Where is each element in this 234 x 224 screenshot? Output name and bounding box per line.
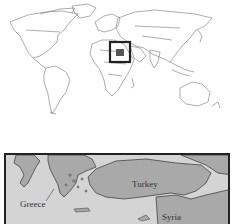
label-greece: Greece bbox=[20, 199, 45, 209]
world-map-outline bbox=[0, 0, 234, 150]
label-syria: Syria bbox=[162, 212, 181, 222]
inset-map: Turkey Greece Syria bbox=[4, 153, 230, 224]
world-map bbox=[0, 0, 234, 150]
highlight-region bbox=[116, 49, 124, 56]
inset-map-shapes bbox=[6, 155, 230, 224]
label-turkey: Turkey bbox=[132, 179, 158, 189]
